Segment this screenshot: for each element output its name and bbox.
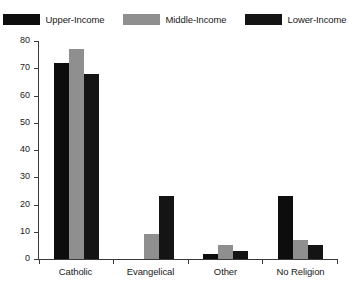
bar-chart: Upper-IncomeMiddle-IncomeLower-Income 01…: [0, 0, 349, 295]
bar-group: [263, 42, 338, 259]
legend-swatch-icon: [3, 14, 40, 25]
x-axis-tick: [188, 259, 189, 264]
bar[interactable]: [84, 74, 99, 259]
bar[interactable]: [54, 63, 69, 259]
bar[interactable]: [218, 245, 233, 259]
legend-swatch-icon: [245, 14, 282, 25]
plot-area: 01020304050607080: [38, 42, 338, 260]
legend-entry[interactable]: Upper-Income: [3, 14, 105, 25]
bar[interactable]: [233, 251, 248, 259]
y-tick-label: 10: [20, 226, 30, 237]
x-axis-label: Evangelical: [113, 266, 188, 278]
bars-container: [39, 42, 338, 259]
legend-swatch-icon: [123, 14, 160, 25]
chart-legend: Upper-IncomeMiddle-IncomeLower-Income: [0, 9, 349, 29]
y-tick-label: 30: [20, 171, 30, 182]
bar[interactable]: [278, 196, 293, 259]
legend-entry[interactable]: Lower-Income: [245, 14, 347, 25]
x-axis-label: No Religion: [263, 266, 338, 278]
legend-entry[interactable]: Middle-Income: [123, 14, 227, 25]
y-tick-label: 80: [20, 35, 30, 46]
x-axis-tick: [262, 259, 263, 264]
bar-group: [189, 42, 264, 259]
y-tick-label: 50: [20, 117, 30, 128]
x-axis-label: Other: [188, 266, 263, 278]
legend-label: Middle-Income: [166, 14, 227, 25]
x-axis-labels: CatholicEvangelicalOtherNo Religion: [38, 266, 338, 278]
bar[interactable]: [159, 196, 174, 259]
bar[interactable]: [203, 254, 218, 259]
bar[interactable]: [308, 245, 323, 259]
x-axis-tick: [113, 259, 114, 264]
x-axis-label: Catholic: [38, 266, 113, 278]
bar-group: [114, 42, 189, 259]
bar[interactable]: [69, 49, 84, 259]
y-tick-label: 60: [20, 90, 30, 101]
bar-group: [39, 42, 114, 259]
legend-label: Upper-Income: [46, 14, 105, 25]
bar[interactable]: [144, 234, 159, 259]
x-axis-tick: [39, 259, 40, 264]
bar[interactable]: [293, 240, 308, 259]
y-tick-label: 70: [20, 62, 30, 73]
legend-label: Lower-Income: [288, 14, 347, 25]
y-tick-label: 40: [20, 144, 30, 155]
y-tick-label: 20: [20, 199, 30, 210]
x-axis-tick: [337, 259, 338, 264]
y-tick-label: 0: [25, 253, 30, 264]
